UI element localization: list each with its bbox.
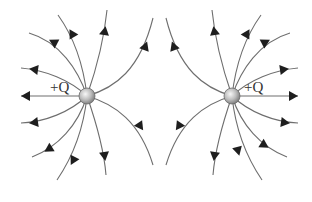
field-line [87, 18, 153, 96]
field-line [87, 10, 107, 96]
field-line [213, 96, 232, 175]
arrow-icon [21, 91, 30, 101]
arrow-icon [279, 64, 289, 75]
field-line [232, 68, 298, 96]
field-line [87, 96, 153, 165]
field-line [212, 10, 232, 96]
field-line [87, 96, 106, 175]
field-line [166, 96, 232, 165]
field-line [32, 96, 87, 157]
arrow-icon [209, 151, 220, 161]
right-charge: +Q [224, 79, 263, 104]
arrow-icon [289, 91, 298, 101]
charge-sphere-icon [79, 88, 95, 104]
arrow-icon [280, 117, 290, 128]
arrow-icon [232, 146, 244, 157]
arrow-icon [134, 120, 147, 133]
left-charge: +Q [50, 79, 95, 104]
charge-label: +Q [244, 79, 263, 95]
arrow-icon [28, 117, 38, 128]
field-line [166, 18, 232, 96]
charge-sphere-icon [224, 88, 240, 104]
arrow-icon [99, 151, 110, 161]
arrow-icon [42, 143, 55, 156]
charge-label: +Q [50, 79, 69, 95]
electric-field-diagram: +Q +Q [0, 0, 312, 202]
arrow-icon [28, 64, 38, 75]
arrow-icon [172, 120, 185, 133]
